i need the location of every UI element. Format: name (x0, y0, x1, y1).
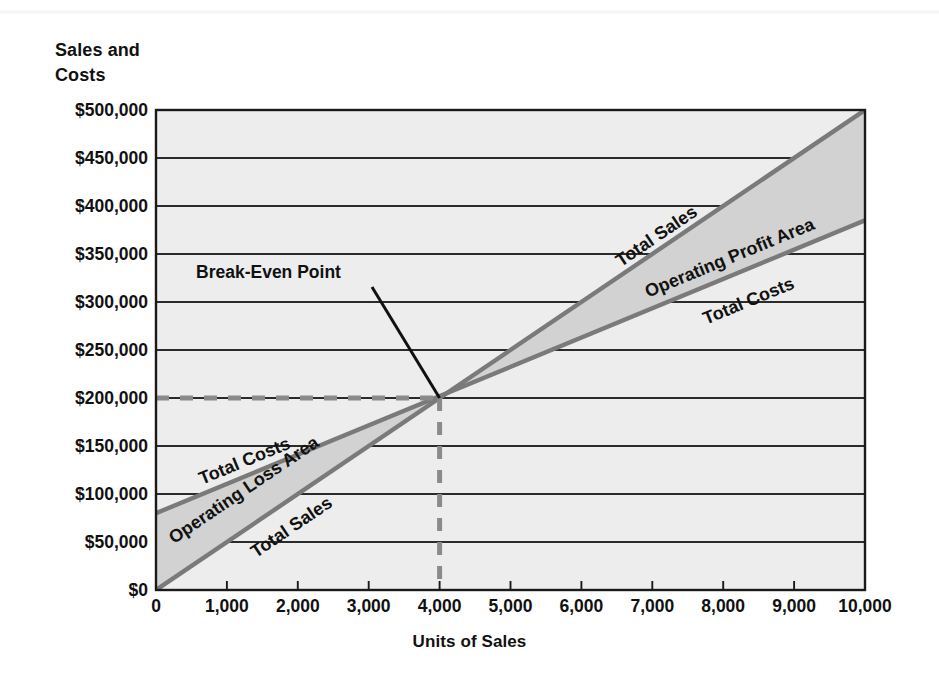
x-tick-label: 8,000 (701, 596, 745, 617)
x-tick-label: 6,000 (559, 596, 603, 617)
break-even-chart-figure: Sales and Costs $0$50,000$100,000$150,00… (0, 0, 939, 694)
x-tick-label: 7,000 (630, 596, 674, 617)
x-tick-label: 1,000 (205, 596, 249, 617)
x-axis-title: Units of Sales (0, 632, 939, 652)
chart-plot-area (0, 0, 939, 694)
x-tick-label: 2,000 (276, 596, 320, 617)
break-even-point-label: Break-Even Point (196, 262, 341, 283)
x-tick-label: 4,000 (418, 596, 462, 617)
x-tick-label: 9,000 (772, 596, 816, 617)
x-tick-label: 10,000 (838, 596, 892, 617)
x-tick-label: 3,000 (347, 596, 391, 617)
x-tick-label: 0 (151, 596, 161, 617)
x-tick-label: 5,000 (489, 596, 533, 617)
